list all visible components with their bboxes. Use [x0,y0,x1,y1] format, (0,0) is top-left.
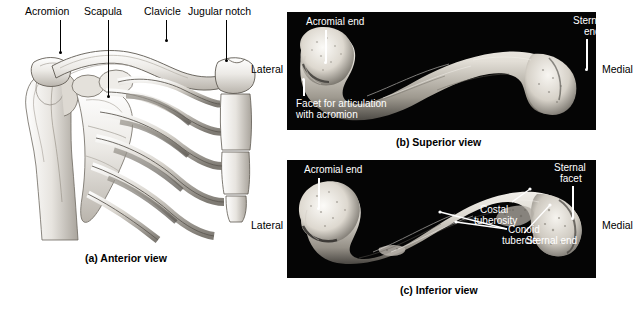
leader-dot-c-sternal-facet [571,217,574,220]
leader-dot-b-facet [302,78,305,81]
label-c-sternal-facet-line2: facet [560,173,582,184]
leader-dot-scapula [107,95,110,98]
leader-c-acromial-end [318,178,320,208]
leader-dot-b-sternal-end [585,68,588,71]
leader-dot-acromion [59,51,62,54]
label-acromion: Acromion [25,6,69,18]
leader-scapula [108,20,109,96]
label-b-facet-line2: with acromion [296,109,358,120]
label-c-costal-tuberosity-line1: Costal [480,204,508,215]
panel-c-inferior-view-photo [287,160,596,278]
caption-panel-a: (a) Anterior view [85,252,167,264]
panel-a-anterior-view [0,26,262,240]
clavicle-figure: Acromion Scapula Clavicle Jugular notch … [0,0,644,310]
sternum-drawing [215,58,255,222]
label-b-facet-line1: Facet for articulation [296,98,387,109]
orientation-c-lateral: Lateral [251,219,283,231]
leader-dot-b-acromial-end [324,61,327,64]
humerus-drawing [26,70,78,240]
orientation-b-medial: Medial [602,63,633,75]
label-clavicle: Clavicle [144,6,181,18]
caption-panel-b: (b) Superior view [396,136,481,148]
label-b-sternal-end-line2: end [584,26,601,37]
leader-jugular-notch [226,20,227,60]
label-c-acromial-end: Acromial end [304,164,362,175]
orientation-c-medial: Medial [602,219,633,231]
leader-dot-jugular-notch [225,59,228,62]
anterior-view-drawing [0,26,262,240]
label-c-sternal-end: Sternal end [526,235,577,246]
leader-b-acromial-end [325,30,327,62]
leader-clavicle [166,20,167,40]
leader-dot-c-acromial-end [317,207,320,210]
label-jugular-notch: Jugular notch [188,6,251,18]
leader-b-facet [303,80,305,96]
orientation-b-lateral: Lateral [251,63,283,75]
leader-c-sternal-facet [572,186,574,218]
label-scapula: Scapula [84,6,122,18]
caption-panel-c: (c) Inferior view [400,284,478,296]
label-b-acromial-end: Acromial end [306,16,364,27]
leader-dot-clavicle [165,39,168,42]
label-c-conoid-tubercle-line1: Conoid [508,224,540,235]
leader-b-sternal-end [586,39,588,69]
label-c-sternal-facet-line1: Sternal [554,162,586,173]
label-b-sternal-end-line1: Sternal [573,15,605,26]
leader-acromion [60,20,61,52]
clavicle-inferior-photo [287,160,596,278]
